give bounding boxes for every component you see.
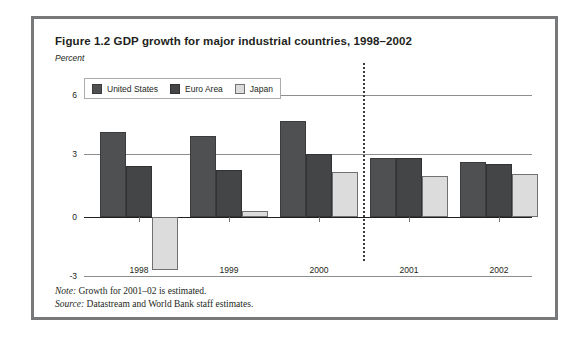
y-tick-label-6: 6	[55, 90, 77, 100]
x-axis-label-2001: 2001	[400, 265, 419, 275]
x-tick-mark-1998	[139, 217, 140, 222]
x-axis-label-1999: 1999	[220, 265, 239, 275]
legend-item-united-states: United States	[92, 84, 158, 94]
bar-2000-united-states	[280, 121, 306, 217]
legend-swatch-united-states	[92, 84, 102, 94]
x-axis-label-1998: 1998	[130, 265, 149, 275]
bar-2000-japan	[332, 172, 358, 217]
chart-legend: United States Euro Area Japan	[84, 78, 281, 99]
estimates-divider-line	[363, 63, 365, 261]
bar-2002-united-states	[460, 162, 486, 217]
legend-swatch-euro-area	[170, 84, 180, 94]
legend-swatch-japan	[235, 84, 245, 94]
bar-1998-united-states	[100, 132, 126, 217]
bar-1998-euro-area	[126, 166, 152, 217]
source-text: Datastream and World Bank staff estimate…	[84, 299, 253, 309]
bar-2002-euro-area	[486, 164, 512, 217]
note-text: Growth for 2001–02 is estimated.	[76, 286, 206, 296]
bar-1999-japan	[242, 211, 268, 217]
bar-2001-united-states	[370, 158, 396, 217]
bar-2000-euro-area	[306, 154, 332, 217]
figure-footnotes: Note: Growth for 2001–02 is estimated. S…	[55, 285, 525, 311]
x-tick-mark-2000	[319, 217, 320, 222]
figure-title: Figure 1.2 GDP growth for major industri…	[55, 35, 412, 47]
legend-label-japan: Japan	[250, 84, 273, 94]
bar-2001-euro-area	[396, 158, 422, 217]
y-tick-label-3: 3	[55, 149, 77, 159]
y-tick-label-0: 0	[55, 212, 77, 222]
x-tick-mark-2001	[409, 217, 410, 222]
figure-note: Note: Growth for 2001–02 is estimated.	[55, 285, 525, 298]
legend-label-united-states: United States	[107, 84, 158, 94]
bar-2001-japan	[422, 176, 448, 217]
source-key: Source:	[55, 299, 84, 309]
legend-item-japan: Japan	[235, 84, 273, 94]
x-axis-label-2000: 2000	[310, 265, 329, 275]
y-axis-unit-label: Percent	[55, 53, 84, 63]
legend-item-euro-area: Euro Area	[170, 84, 223, 94]
x-axis-label-2002: 2002	[490, 265, 509, 275]
x-axis-labels: 1998 1999 2000 2001 2002	[84, 265, 540, 279]
bar-2002-japan	[512, 174, 538, 217]
y-tick-label-neg3: -3	[55, 271, 77, 281]
bar-1998-japan	[152, 217, 178, 270]
figure-frame: Figure 1.2 GDP growth for major industri…	[31, 16, 558, 320]
bar-1999-euro-area	[216, 170, 242, 217]
figure-source: Source: Datastream and World Bank staff …	[55, 298, 525, 311]
x-tick-mark-1999	[229, 217, 230, 222]
x-tick-mark-2002	[499, 217, 500, 222]
bar-1999-united-states	[190, 136, 216, 217]
note-key: Note:	[55, 286, 76, 296]
legend-label-euro-area: Euro Area	[185, 84, 223, 94]
